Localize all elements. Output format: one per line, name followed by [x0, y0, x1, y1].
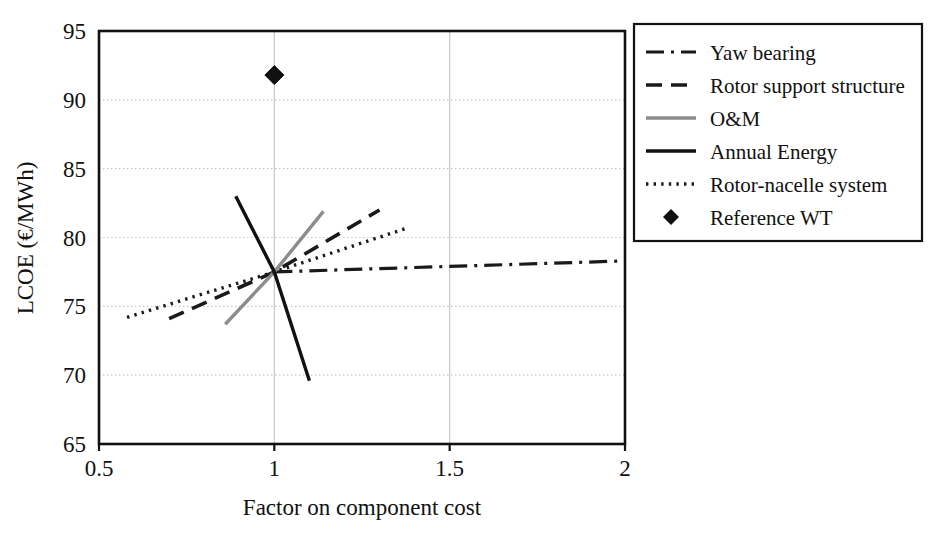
y-tick-label: 95: [63, 19, 86, 44]
y-axis-title: LCOE (€/MWh): [13, 162, 38, 315]
legend-item-label: Rotor-nacelle system: [710, 173, 887, 197]
y-tick-label: 70: [63, 363, 86, 388]
y-tick-label: 80: [63, 226, 86, 251]
chart-figure: 0.511.52 65707580859095 Factor on compon…: [0, 0, 935, 534]
x-tick-label: 1: [269, 456, 281, 481]
legend-item-label: O&M: [710, 107, 761, 131]
y-tick-label: 75: [63, 294, 86, 319]
legend-item-label: Reference WT: [710, 206, 833, 230]
x-tick-label: 0.5: [85, 456, 114, 481]
x-axis-title: Factor on component cost: [243, 495, 482, 520]
legend-item-label: Annual Energy: [710, 140, 838, 164]
y-tick-label: 90: [63, 88, 86, 113]
y-tick-label: 65: [63, 432, 86, 457]
sensitivity-line-chart: 0.511.52 65707580859095 Factor on compon…: [0, 0, 935, 534]
chart-legend: Yaw bearingRotor support structureO&MAnn…: [634, 24, 922, 241]
legend-item-label: Yaw bearing: [710, 41, 816, 65]
legend-item-label: Rotor support structure: [710, 74, 905, 98]
y-tick-label: 85: [63, 157, 86, 182]
x-tick-label: 1.5: [435, 456, 464, 481]
x-tick-label: 2: [619, 456, 631, 481]
